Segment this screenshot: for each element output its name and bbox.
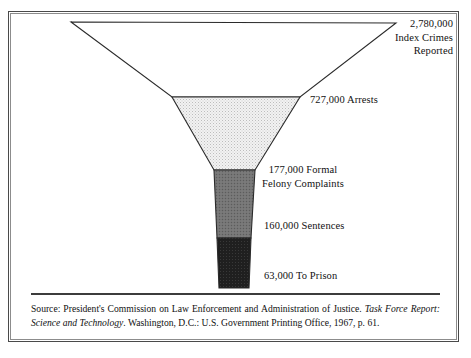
label-sentences: 160,000 Sentences [264, 219, 344, 233]
source-citation-suffix: . Washington, D.C.: U.S. Government Prin… [123, 317, 379, 328]
label-felony-complaints: 177,000 Formal Felony Complaints [262, 163, 344, 190]
label-index-crimes: 2,780,000 Index Crimes Reported [395, 17, 453, 58]
funnel-band-felony-complaints [214, 170, 255, 238]
label-to-prison: 63,000 To Prison [264, 269, 337, 283]
source-citation: Source: President's Commission on Law En… [31, 302, 440, 329]
funnel-band-index-crimes [71, 22, 396, 97]
funnel-band-arrests [172, 97, 300, 170]
funnel-band-sentences-prison [217, 238, 251, 288]
source-citation-prefix: Source: President's Commission on Law En… [31, 303, 365, 314]
source-divider-rule [31, 293, 440, 295]
funnel-figure: 2,780,000 Index Crimes Reported 727,000 … [0, 0, 471, 358]
label-arrests: 727,000 Arrests [310, 93, 378, 107]
